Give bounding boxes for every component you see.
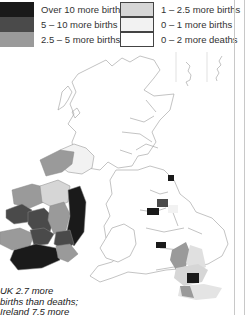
region-london (187, 273, 199, 283)
uk-ireland-choropleth-map (0, 0, 247, 315)
region-cleveland (168, 175, 174, 181)
england (90, 166, 228, 282)
summary-note: UK 2.7 more births than deaths; Ireland … (0, 286, 78, 315)
ireland-midlands-light (40, 180, 70, 208)
region-merseyside (147, 208, 159, 215)
region-yorkshire (168, 205, 178, 213)
note-line-1: UK 2.7 more (0, 285, 53, 296)
note-line-3: Ireland 7.5 more (0, 306, 69, 315)
ireland-central (48, 202, 70, 234)
region-west-midlands (156, 242, 166, 248)
shetland-islands (216, 56, 222, 81)
orkney-islands (186, 62, 191, 86)
region-tyne (157, 199, 168, 207)
note-line-2: births than deaths; (0, 296, 78, 307)
